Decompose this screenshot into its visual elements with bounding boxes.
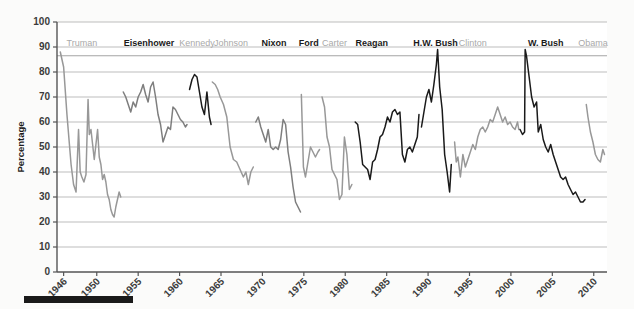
president-label-w-bush: W. Bush: [528, 38, 564, 48]
y-axis-ticks: 0102030405060708090100: [33, 16, 57, 277]
president-label-clinton: Clinton: [459, 38, 487, 48]
x-tick-label-1946: 1946: [46, 275, 70, 299]
president-label-eisenhower: Eisenhower: [124, 38, 175, 48]
x-tick-label-1950: 1950: [79, 275, 103, 299]
x-tick-label-1975: 1975: [286, 275, 310, 299]
president-label-carter: Carter: [322, 38, 347, 48]
president-label-h-w-bush: H.W. Bush: [413, 38, 458, 48]
y-tick-label-20: 20: [39, 216, 51, 227]
chart-canvas: 0102030405060708090100Percentage19461950…: [0, 0, 634, 309]
y-tick-label-50: 50: [39, 141, 51, 152]
y-tick-label-10: 10: [39, 241, 51, 252]
y-tick-label-70: 70: [39, 91, 51, 102]
president-label-ford: Ford: [299, 38, 319, 48]
president-label-reagan: Reagan: [356, 38, 389, 48]
x-tick-label-2000: 2000: [493, 275, 517, 299]
president-label-johnson: Johnson: [214, 38, 248, 48]
y-tick-label-90: 90: [39, 41, 51, 52]
x-tick-label-1970: 1970: [244, 275, 268, 299]
y-tick-label-30: 30: [39, 191, 51, 202]
x-tick-label-2010: 2010: [576, 275, 600, 299]
x-tick-label-1995: 1995: [451, 275, 475, 299]
x-tick-label-1965: 1965: [203, 275, 227, 299]
x-tick-label-1985: 1985: [369, 275, 393, 299]
x-axis-ticks: 1946195019551960196519701975198019851990…: [46, 272, 600, 299]
president-label-nixon: Nixon: [262, 38, 287, 48]
president-label-kennedy: Kennedy: [179, 38, 215, 48]
y-axis-title: Percentage: [15, 121, 26, 172]
president-label-truman: Truman: [67, 38, 98, 48]
x-tick-label-1990: 1990: [410, 275, 434, 299]
x-tick-label-1960: 1960: [161, 275, 185, 299]
y-tick-label-80: 80: [39, 66, 51, 77]
president-label-obama: Obama: [578, 38, 608, 48]
y-tick-label-60: 60: [39, 116, 51, 127]
y-tick-label-100: 100: [33, 16, 50, 27]
y-tick-label-0: 0: [44, 266, 50, 277]
x-tick-label-1955: 1955: [120, 275, 144, 299]
x-tick-label-1980: 1980: [327, 275, 351, 299]
footer-bar: [24, 296, 133, 303]
approval-rating-chart: 0102030405060708090100Percentage19461950…: [0, 0, 634, 309]
y-tick-label-40: 40: [39, 166, 51, 177]
x-tick-label-2005: 2005: [534, 275, 558, 299]
